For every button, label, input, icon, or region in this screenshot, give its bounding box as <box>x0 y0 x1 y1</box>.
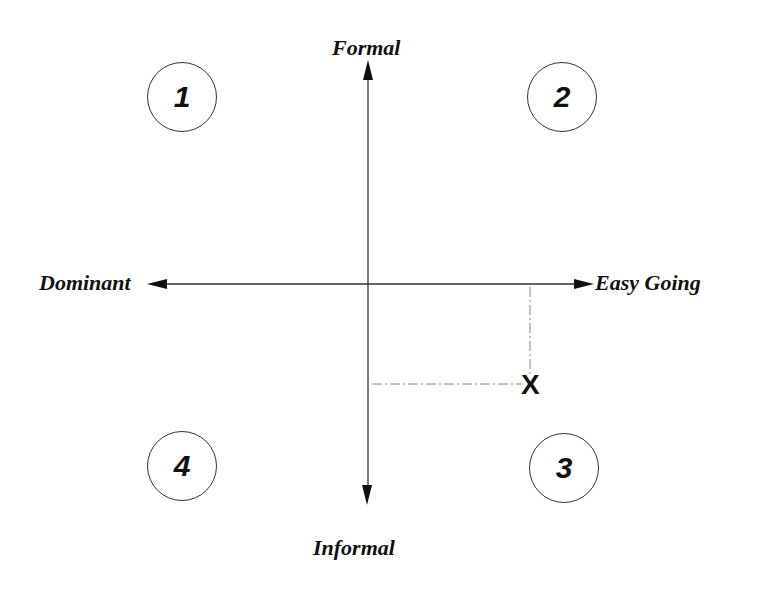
axis-label-informal: Informal <box>313 537 395 559</box>
quadrant-1-circle: 1 <box>147 62 217 132</box>
axis-label-dominant: Dominant <box>39 272 131 294</box>
quadrant-4-number: 4 <box>174 451 191 481</box>
arrow-down-icon <box>362 485 372 505</box>
plotted-point-marker: X <box>521 371 540 399</box>
axis-label-easy-going: Easy Going <box>595 272 701 294</box>
quadrant-3-circle: 3 <box>529 433 599 503</box>
arrow-right-icon <box>574 279 594 289</box>
arrow-up-icon <box>363 60 373 80</box>
quadrant-diagram: Formal Informal Dominant Easy Going 1 2 … <box>0 0 759 589</box>
quadrant-1-number: 1 <box>174 82 191 112</box>
arrow-left-icon <box>147 279 167 289</box>
quadrant-2-number: 2 <box>554 82 571 112</box>
quadrant-3-number: 3 <box>556 453 573 483</box>
quadrant-2-circle: 2 <box>527 62 597 132</box>
quadrant-4-circle: 4 <box>147 431 217 501</box>
axis-label-formal: Formal <box>332 37 400 59</box>
